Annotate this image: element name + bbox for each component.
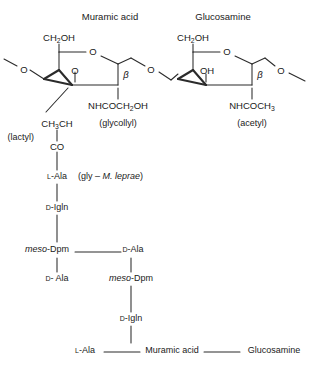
label-right-ch2oh: CH2OH [177,33,209,44]
residue-d-igln-2: D-Igln [120,314,143,323]
label-right-terminal-oxygen: O [277,66,284,76]
bond-left-front-base [44,79,72,85]
label-left-ch2oh: CH2OH [43,33,75,44]
label-left-beta: β [123,70,128,80]
label-lactyl-formula: CH3CH [41,119,72,130]
bond-right-front-base [178,79,206,85]
residue-l-ala-2: L-Ala [75,346,95,355]
residue-d-ala-2: D-Ala [122,245,143,254]
residue-l-ala-1: L-Ala [47,172,67,181]
label-right-beta: β [257,70,262,80]
label-left-ether-oxygen: O [71,66,78,76]
residue-d-ala-1: D- Ala [45,274,68,283]
bottom-muramic-acid: Muramic acid [145,346,199,355]
bond-glycosidic-c [159,72,171,80]
bond-left-c4-c5-front [44,70,59,79]
peptidoglycan-diagram: Muramic acid Glucosamine CH2OH O O O β O… [0,0,313,371]
residue-meso-dpm-2: meso-Dpm [109,274,153,283]
label-left-ring-oxygen: O [89,47,96,57]
label-left-terminal-oxygen: O [20,65,27,75]
header-glucosamine: Glucosamine [195,12,250,22]
bond-glycosidic-a [118,58,131,64]
label-right-n-acyl: NHCOCH3 [229,101,275,112]
label-right-ring-oxygen: O [223,47,230,57]
label-carbonyl: CO [50,142,64,152]
label-right-hydroxyl: OH [200,66,214,76]
bond-right-ringO-c1 [235,56,252,64]
label-glycosidic-oxygen: O [147,65,154,75]
bond-skeleton [0,0,313,371]
bond-right-c4-c5-front [178,70,193,79]
bond-left-terminal [4,59,17,66]
bottom-glucosamine: Glucosamine [248,346,301,355]
bond-right-term-a [252,58,265,64]
label-right-n-acyl-name: (acetyl) [237,119,267,128]
residue-d-igln-1: D-Igln [46,203,69,212]
bond-right-term-c [289,73,305,81]
bond-right-term-b [265,58,275,66]
bond-left-lactyl [46,88,68,112]
bond-glycosidic-d [171,74,178,80]
label-lactyl-name: (lactyl) [8,133,35,142]
header-muramic-acid: Muramic acid [82,12,139,22]
bond-left-o-link [30,70,44,79]
residue-meso-dpm-1: meso-Dpm [25,245,69,254]
label-left-n-acyl-name: (glycollyl) [99,119,137,128]
bond-left-ringO-c1 [101,56,118,64]
bond-glycosidic-b [131,58,145,66]
label-left-n-acyl: NHCOCH2OH [88,101,148,112]
annotation-gly-mleprae: (gly – M. leprae) [78,172,143,181]
bond-left-c3-c4-front [59,70,72,85]
